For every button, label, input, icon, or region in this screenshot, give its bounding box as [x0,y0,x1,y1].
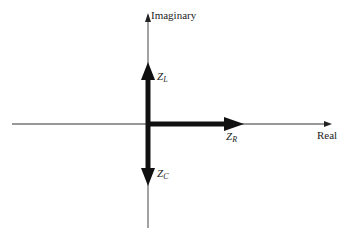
zl-sub: L [163,75,167,84]
zr-sub: R [232,135,237,144]
zl-arrowhead [141,62,155,80]
zr-label: ZR [226,131,237,144]
real-axis-arrowhead [324,121,332,127]
zc-label: ZC [157,168,168,181]
real-axis-label: Real [317,130,337,141]
zr-arrowhead [224,117,244,131]
zc-arrowhead [141,168,155,186]
zc-sub: C [163,172,168,181]
diagram-graphics [0,0,348,235]
imaginary-axis-label: Imaginary [151,10,196,21]
phasor-diagram: Imaginary Real ZL ZR ZC [0,0,348,235]
zl-label: ZL [157,71,168,84]
